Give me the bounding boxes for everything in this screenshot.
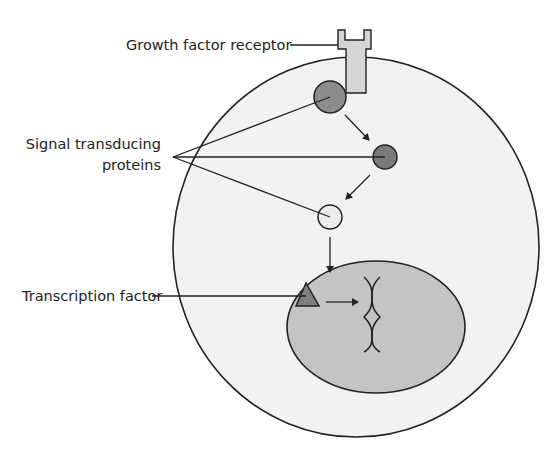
signaling-diagram: Growth factor receptor Signal transducin… — [0, 0, 559, 457]
label-growth-factor-receptor: Growth factor receptor — [126, 37, 291, 53]
label-signal-transducing: Signal transducing — [26, 136, 161, 152]
label-proteins: proteins — [102, 157, 161, 173]
label-transcription-factor: Transcription factor — [21, 288, 162, 304]
